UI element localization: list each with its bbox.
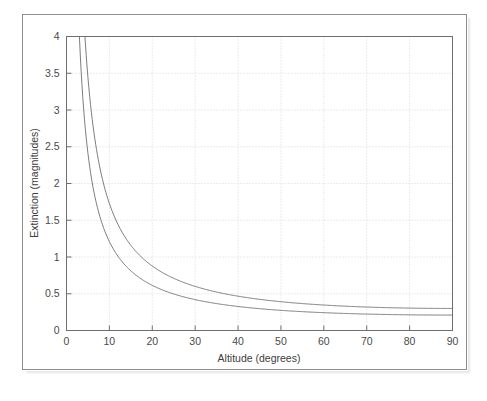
curve-upper-curve — [79, 0, 453, 308]
x-tick-label-0: 0 — [64, 335, 70, 347]
y-tick-label-1.5: 1.5 — [45, 214, 60, 226]
curve-lower-curve — [75, 0, 452, 315]
x-tick-label-90: 90 — [447, 335, 459, 347]
y-tick-label-2.5: 2.5 — [45, 140, 60, 152]
y-tick-label-0.5: 0.5 — [45, 287, 60, 299]
y-tick-label-3.5: 3.5 — [45, 67, 60, 79]
y-axis-title: Extinction (magnitudes) — [28, 128, 40, 238]
x-tick-label-70: 70 — [361, 335, 373, 347]
y-tick-label-2: 2 — [54, 177, 60, 189]
x-tick-label-50: 50 — [275, 335, 287, 347]
x-tick-label-80: 80 — [404, 335, 416, 347]
x-tick-label-20: 20 — [146, 335, 158, 347]
tick-labels: 010203040506070809000.511.522.533.54 — [45, 30, 459, 347]
x-tick-label-10: 10 — [104, 335, 116, 347]
x-tick-label-30: 30 — [189, 335, 201, 347]
y-tick-label-1: 1 — [54, 251, 60, 263]
data-curves — [75, 0, 452, 315]
y-tick-label-4: 4 — [54, 30, 60, 42]
x-tick-label-60: 60 — [318, 335, 330, 347]
figure-canvas: 010203040506070809000.511.522.533.54 Alt… — [0, 0, 487, 401]
grid-lines — [67, 37, 453, 331]
extinction-vs-altitude-chart: 010203040506070809000.511.522.533.54 Alt… — [0, 0, 487, 401]
y-tick-label-3: 3 — [54, 104, 60, 116]
x-tick-label-40: 40 — [232, 335, 244, 347]
y-tick-label-0: 0 — [54, 324, 60, 336]
x-axis-title: Altitude (degrees) — [218, 352, 301, 364]
plot-area-wrapper: 010203040506070809000.511.522.533.54 Alt… — [0, 0, 487, 401]
